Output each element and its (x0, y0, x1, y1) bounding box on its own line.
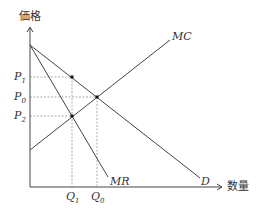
mc-label: MC (172, 31, 192, 42)
competitive-equilibrium-point (96, 96, 99, 99)
x-axis-label: 数量 (227, 181, 249, 192)
y-axis-label: 価格 (19, 11, 41, 22)
mc-curve (30, 40, 170, 150)
mr-curve (30, 45, 108, 177)
monopoly-price-point (71, 76, 74, 79)
q0-label: Q0 (91, 191, 105, 205)
p2-label: P2 (14, 110, 26, 124)
p0-label: P0 (14, 91, 26, 105)
demand-curve (30, 45, 200, 178)
q1-label: Q1 (66, 191, 80, 205)
mr-mc-intersection-point (71, 115, 74, 118)
demand-label: D (201, 176, 210, 187)
p1-label: P1 (14, 71, 26, 85)
mr-label: MR (110, 176, 130, 187)
